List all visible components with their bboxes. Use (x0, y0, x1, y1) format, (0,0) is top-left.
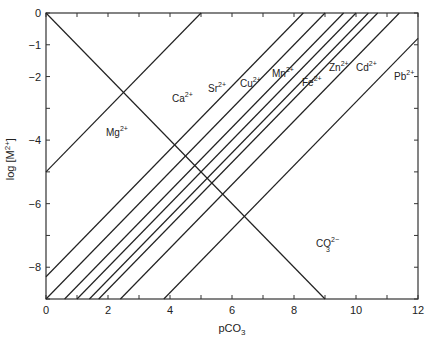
series-line (77, 13, 356, 299)
y-tick-label: −4 (28, 134, 41, 146)
y-tick-label: 0 (35, 7, 41, 19)
series-line (89, 13, 368, 299)
series-label: Zn2+ (329, 60, 349, 73)
series-line (164, 38, 418, 299)
series-label: Ca2+ (172, 91, 193, 104)
series-label: Cu2+ (240, 76, 261, 89)
chart: 0246810120−1−2−4−6−8pCO3log [M2+]Mg2+Ca2… (0, 0, 433, 338)
series-label: Sr2+ (208, 81, 226, 94)
y-tick-label: −2 (28, 71, 41, 83)
series-label: Fe2+ (302, 75, 322, 88)
x-tick-label: 10 (350, 304, 362, 316)
series-label: Cd2+ (356, 60, 377, 73)
series-label: CO2−3 (316, 236, 339, 253)
series-line (99, 13, 378, 299)
series-label: Mn2+ (272, 66, 294, 79)
plot-area: 0246810120−1−2−4−6−8pCO3log [M2+]Mg2+Ca2… (3, 7, 424, 337)
x-tick-label: 0 (43, 304, 49, 316)
series-label: Pb2+ (394, 69, 414, 82)
x-tick-label: 4 (167, 304, 173, 316)
x-tick-label: 2 (105, 304, 111, 316)
series-line (65, 13, 344, 299)
x-tick-label: 12 (412, 304, 424, 316)
y-tick-label: −1 (28, 39, 41, 51)
series-label: Mg2+ (106, 125, 128, 138)
x-tick-label: 8 (291, 304, 297, 316)
y-tick-label: −8 (28, 261, 41, 273)
series-line (120, 13, 399, 299)
y-tick-label: −6 (28, 198, 41, 210)
x-axis-title: pCO3 (218, 322, 246, 337)
y-axis-title: log [M2+] (3, 138, 16, 180)
x-tick-label: 6 (229, 304, 235, 316)
axes-frame (46, 13, 418, 299)
